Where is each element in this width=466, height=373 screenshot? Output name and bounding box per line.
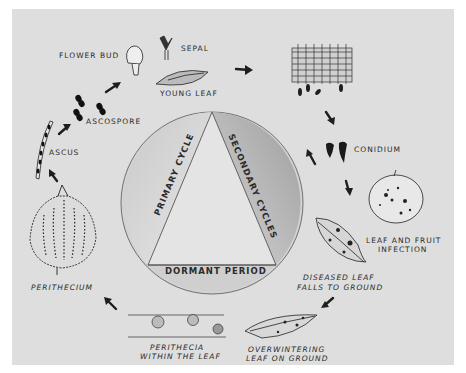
overwintering-leaf-illustration xyxy=(245,315,317,338)
infection-label-line2: INFECTION xyxy=(378,245,427,254)
overwintering-label-line2: LEAF ON GROUND xyxy=(246,354,328,363)
flower-bud-illustration xyxy=(127,46,143,75)
diseased-leaf-label-line1: DISEASED LEAF xyxy=(303,273,375,282)
infection-label-line1: LEAF AND FRUIT xyxy=(366,236,441,245)
arrow-icon xyxy=(306,149,315,164)
arrow-icon xyxy=(104,297,116,309)
apple-illustration xyxy=(369,170,423,223)
young-leaf-label: YOUNG LEAF xyxy=(160,89,218,98)
young-leaf-illustration xyxy=(156,71,208,86)
arrow-icon xyxy=(49,169,57,181)
flower-bud-label: FLOWER BUD xyxy=(59,51,119,60)
dormant-period-label: DORMANT PERIOD xyxy=(165,267,267,276)
arrow-icon xyxy=(321,298,333,308)
perithecium-label: PERITHECIUM xyxy=(31,283,93,292)
arrow-icon xyxy=(106,82,121,92)
arrow-icon xyxy=(59,124,71,134)
leaf-tissue-illustration xyxy=(292,44,352,96)
arrow-icon xyxy=(236,65,253,75)
perithecia-in-leaf-illustration xyxy=(128,315,226,338)
conidium-illustration xyxy=(326,142,347,163)
perithecium-illustration xyxy=(30,185,96,275)
diseased-leaf-illustration xyxy=(316,218,366,262)
ascus-label: ASCUS xyxy=(49,148,79,157)
ascospore-label: ASCOSPORE xyxy=(86,117,141,126)
sepal-illustration xyxy=(160,36,172,60)
sepal-label: SEPAL xyxy=(181,44,209,53)
overwintering-label-line1: OVERWINTERING xyxy=(248,345,325,354)
perithecia-label-line1: PERITHECIA xyxy=(150,343,204,352)
arrow-icon xyxy=(326,112,335,125)
perithecia-label-line2: WITHIN THE LEAF xyxy=(140,352,221,361)
diseased-leaf-label-line2: FALLS TO GROUND xyxy=(297,283,383,292)
arrow-icon xyxy=(345,181,353,196)
conidium-label: CONIDIUM xyxy=(354,145,401,154)
